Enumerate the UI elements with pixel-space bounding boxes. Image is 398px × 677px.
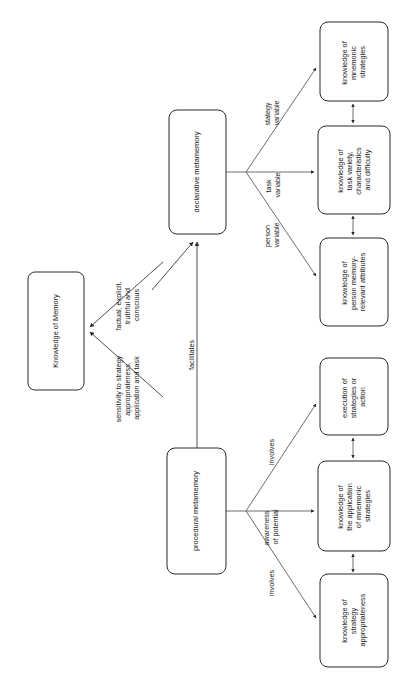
node-label-knowledge-of-memory: Knowledge of Memory xyxy=(51,294,60,368)
node-knowledge-of-application[interactable]: knowledge of the application of mnemonic… xyxy=(318,461,390,551)
edge-label-task-variable: task variable xyxy=(263,172,281,197)
edge-label-text-awareness-of-potential: awareness of potential xyxy=(261,509,279,546)
node-label-knowledge-of-task-variety: knowledge of task variety, characteristi… xyxy=(335,145,371,194)
edge-label-text-factual-explicit: factual, explicit, truthful and consciou… xyxy=(114,279,141,330)
node-knowledge-of-mnemonic-strategies[interactable]: knowledge of mnemonic strategies xyxy=(320,22,388,101)
edge-label-text-task-variable: task variable xyxy=(263,172,281,197)
node-knowledge-of-person-memory[interactable]: knowledge of person memory- relevant att… xyxy=(320,238,388,326)
node-label-declarative-metamemory: declarative metamemory xyxy=(192,131,201,212)
node-execution-of-strategies[interactable]: execution of strategies or action xyxy=(320,358,388,435)
node-knowledge-of-memory[interactable]: Knowledge of Memory xyxy=(28,272,84,390)
edge-label-awareness-of-potential: awareness of potential xyxy=(261,509,279,546)
diagram-canvas: Knowledge of Memory declarative metamemo… xyxy=(0,0,398,677)
edge-label-text-facilitates: facilitates xyxy=(187,340,196,370)
edge-label-text-involves-top: involves xyxy=(267,439,276,465)
node-label-procedural-metamemory: procedural metamemory xyxy=(191,471,200,551)
node-knowledge-of-strategy-appropriateness[interactable]: knowledge of strategy appropriateness xyxy=(320,574,388,667)
node-label-knowledge-of-person-memory: knowledge of person memory- relevant att… xyxy=(340,252,367,311)
metamemory-flowchart: Knowledge of Memory declarative metamemo… xyxy=(0,0,398,677)
node-knowledge-of-task-variety[interactable]: knowledge of task variety, characteristi… xyxy=(318,126,390,214)
edge-label-involves-top: involves xyxy=(267,439,276,465)
node-procedural-metamemory[interactable]: procedural metamemory xyxy=(167,448,226,574)
node-declarative-metamemory[interactable]: declarative metamemory xyxy=(169,110,226,234)
edge-label-person-variable: person variable xyxy=(262,222,280,247)
node-label-knowledge-of-mnemonic-strategies: knowledge of mnemonic strategies xyxy=(340,39,367,85)
edge-label-factual-explicit: factual, explicit, truthful and consciou… xyxy=(114,279,141,330)
edge-label-facilitates: facilitates xyxy=(187,340,196,370)
edge-label-text-stategy-variable: stategy variable xyxy=(262,100,280,125)
edge-label-text-sensitivity-to-strategy: sensitivity to strategy appropriateness,… xyxy=(114,354,141,423)
edge-label-involves-bottom: involves xyxy=(267,570,276,596)
edge-label-text-involves-bottom: involves xyxy=(267,570,276,596)
edge-label-stategy-variable: stategy variable xyxy=(262,100,280,125)
edge-label-text-person-variable: person variable xyxy=(262,222,280,247)
edge-label-sensitivity-to-strategy: sensitivity to strategy appropriateness,… xyxy=(114,354,141,423)
